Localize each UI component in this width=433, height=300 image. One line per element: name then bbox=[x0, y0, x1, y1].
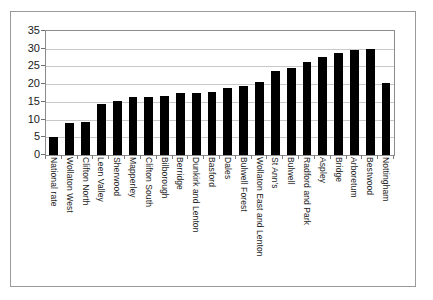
bar bbox=[366, 49, 375, 155]
bar-slot bbox=[188, 31, 204, 155]
bar bbox=[239, 86, 248, 155]
x-axis-label-slot: Leen Valley bbox=[92, 155, 108, 283]
x-axis-category-label: St Ann's bbox=[270, 157, 279, 189]
x-axis-label-slot: Mapperley bbox=[124, 155, 140, 283]
x-axis-category-label: Bulwell Forest bbox=[238, 157, 247, 212]
x-axis-label-slot: Dales bbox=[219, 155, 235, 283]
y-axis-tick-label: 35 bbox=[16, 25, 40, 36]
x-axis-tick-mark bbox=[393, 155, 394, 159]
bar-slot bbox=[46, 31, 62, 155]
bar bbox=[255, 82, 264, 155]
bar-slot bbox=[125, 31, 141, 155]
x-axis-label-slot: Bulwell bbox=[282, 155, 298, 283]
bars-layer bbox=[46, 31, 394, 155]
x-axis-label-slot: Clifton South bbox=[140, 155, 156, 283]
x-axis-label-slot: Bestwood bbox=[361, 155, 377, 283]
x-axis-category-labels: National rateWollaton WestClifton NorthL… bbox=[45, 155, 393, 283]
x-axis-label-slot: Radford and Park bbox=[298, 155, 314, 283]
bar bbox=[49, 137, 58, 155]
bar bbox=[208, 92, 217, 155]
y-axis-tick-label: 25 bbox=[16, 60, 40, 71]
bar bbox=[318, 57, 327, 155]
bar bbox=[144, 97, 153, 155]
bar bbox=[81, 122, 90, 155]
bar-slot bbox=[236, 31, 252, 155]
x-axis-category-label: Dales bbox=[222, 157, 231, 179]
x-axis-label-slot: Aspley bbox=[314, 155, 330, 283]
x-axis-label-slot: Nottingham bbox=[377, 155, 393, 283]
x-axis-label-slot: Bilborough bbox=[156, 155, 172, 283]
x-axis-category-label: Wollaton East and Lenton bbox=[254, 157, 263, 257]
x-axis-category-label: Sherwood bbox=[112, 157, 121, 196]
x-axis-label-slot: Bridge bbox=[330, 155, 346, 283]
bar bbox=[382, 83, 391, 155]
bar bbox=[192, 93, 201, 155]
bar-slot bbox=[78, 31, 94, 155]
x-axis-category-label: Leen Valley bbox=[96, 157, 105, 202]
bar-slot bbox=[283, 31, 299, 155]
x-axis-category-label: Clifton South bbox=[143, 157, 152, 207]
bar bbox=[287, 68, 296, 155]
x-axis-category-label: Wollaton West bbox=[64, 157, 73, 213]
y-axis-tick-label: 30 bbox=[16, 42, 40, 53]
x-axis-category-label: Bulwell bbox=[286, 157, 295, 185]
bar bbox=[160, 96, 169, 155]
x-axis-label-slot: Bulwell Forest bbox=[235, 155, 251, 283]
bar-slot bbox=[267, 31, 283, 155]
bar-slot bbox=[93, 31, 109, 155]
bar-slot bbox=[141, 31, 157, 155]
x-axis-category-label: Clifton North bbox=[80, 157, 89, 206]
x-axis-category-label: Bestwood bbox=[365, 157, 374, 195]
x-axis-label-slot: Wollaton West bbox=[61, 155, 77, 283]
bar-slot bbox=[347, 31, 363, 155]
y-axis-tick-label: 10 bbox=[16, 113, 40, 124]
bar bbox=[223, 88, 232, 155]
bar-slot bbox=[220, 31, 236, 155]
y-axis-tick-label: 20 bbox=[16, 78, 40, 89]
bar bbox=[350, 50, 359, 155]
x-axis-category-label: Berridge bbox=[175, 157, 184, 190]
bar bbox=[176, 93, 185, 155]
x-axis-category-label: Nottingham bbox=[381, 157, 390, 201]
bar bbox=[271, 71, 280, 155]
bar-chart-figure: 05101520253035 National rateWollaton Wes… bbox=[0, 0, 433, 300]
x-axis-category-label: Bilborough bbox=[159, 157, 168, 199]
x-axis-label-slot: Basford bbox=[203, 155, 219, 283]
bar-slot bbox=[204, 31, 220, 155]
bar bbox=[303, 62, 312, 155]
bar bbox=[97, 104, 106, 155]
bar-slot bbox=[157, 31, 173, 155]
x-axis-label-slot: National rate bbox=[45, 155, 61, 283]
bar-slot bbox=[173, 31, 189, 155]
y-axis-tick-label: 0 bbox=[16, 149, 40, 160]
x-axis-category-label: Dunkirk and Lenton bbox=[191, 157, 200, 233]
bar-slot bbox=[109, 31, 125, 155]
x-axis-category-label: Basford bbox=[207, 157, 216, 187]
x-axis-category-label: Mapperley bbox=[127, 157, 136, 198]
plot-area bbox=[45, 30, 395, 156]
bar bbox=[129, 97, 138, 155]
x-axis-label-slot: Arboretum bbox=[346, 155, 362, 283]
bar-slot bbox=[362, 31, 378, 155]
x-axis-category-label: Arboretum bbox=[349, 157, 358, 198]
y-axis-tick-label: 15 bbox=[16, 95, 40, 106]
y-axis-tick-label: 5 bbox=[16, 131, 40, 142]
x-axis-label-slot: Clifton North bbox=[77, 155, 93, 283]
x-axis-category-label: Bridge bbox=[333, 157, 342, 182]
x-axis-category-label: Radford and Park bbox=[301, 157, 310, 225]
y-axis-tick-labels: 05101520253035 bbox=[16, 30, 40, 154]
bar bbox=[113, 101, 122, 155]
bar bbox=[334, 53, 343, 155]
bar-slot bbox=[315, 31, 331, 155]
bar-slot bbox=[378, 31, 394, 155]
x-axis-category-label: Aspley bbox=[317, 157, 326, 183]
bar-slot bbox=[62, 31, 78, 155]
bar-slot bbox=[299, 31, 315, 155]
x-axis-label-slot: Sherwood bbox=[108, 155, 124, 283]
x-axis-label-slot: Dunkirk and Lenton bbox=[187, 155, 203, 283]
x-axis-label-slot: Wollaton East and Lenton bbox=[251, 155, 267, 283]
bar-slot bbox=[252, 31, 268, 155]
x-axis-category-label: National rate bbox=[48, 157, 57, 207]
x-axis-label-slot: St Ann's bbox=[266, 155, 282, 283]
x-axis-label-slot: Berridge bbox=[172, 155, 188, 283]
